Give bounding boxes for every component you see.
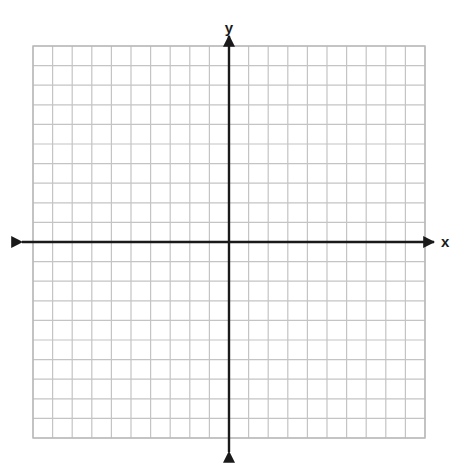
x-axis-label: x xyxy=(441,233,450,250)
y-axis-label: y xyxy=(225,19,234,36)
figure-background xyxy=(0,0,469,463)
coordinate-grid-figure: x y xyxy=(0,0,469,463)
coordinate-plane-svg: x y xyxy=(0,0,469,463)
